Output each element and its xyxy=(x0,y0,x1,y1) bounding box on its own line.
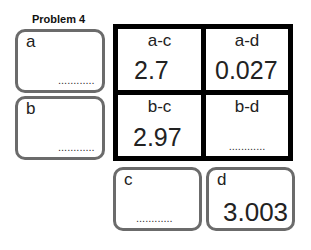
box-a-blank[interactable]: ............ xyxy=(58,76,95,84)
box-b-blank[interactable]: ............ xyxy=(58,143,95,151)
cell-b-d-header: b-d xyxy=(206,97,288,117)
cell-a-d-value: 0.027 xyxy=(215,56,278,85)
cell-b-c: b-c 2.97 xyxy=(118,95,201,156)
box-a[interactable]: a ............ xyxy=(15,29,105,93)
box-d-label: d xyxy=(217,170,226,190)
cell-b-c-value: 2.97 xyxy=(133,123,182,152)
cell-b-d-blank[interactable]: ............ xyxy=(206,142,288,150)
box-d[interactable]: d 3.003 xyxy=(206,167,295,231)
cell-a-c: a-c 2.7 xyxy=(118,29,201,90)
box-a-label: a xyxy=(26,32,35,52)
problem-title: Problem 4 xyxy=(32,13,85,25)
cell-a-c-value: 2.7 xyxy=(134,56,169,85)
box-b[interactable]: b ............ xyxy=(15,96,105,160)
box-c[interactable]: c ............ xyxy=(113,167,202,231)
box-c-blank[interactable]: ............ xyxy=(136,214,173,222)
cell-b-d: b-d ............ xyxy=(206,95,288,156)
cell-a-d: a-d 0.027 xyxy=(206,29,288,90)
cell-b-c-header: b-c xyxy=(118,97,201,117)
box-d-value: 3.003 xyxy=(223,197,288,228)
box-b-label: b xyxy=(26,99,35,119)
difference-grid: a-c 2.7 a-d 0.027 b-c 2.97 b-d .........… xyxy=(113,24,293,161)
cell-a-d-header: a-d xyxy=(206,31,288,51)
cell-a-c-header: a-c xyxy=(118,31,201,51)
box-c-label: c xyxy=(124,170,133,190)
